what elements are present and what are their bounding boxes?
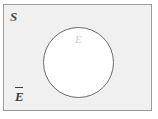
venn-diagram: S E E: [0, 0, 158, 119]
event-circle: [44, 28, 114, 98]
venn-diagram-canvas: [0, 0, 158, 119]
